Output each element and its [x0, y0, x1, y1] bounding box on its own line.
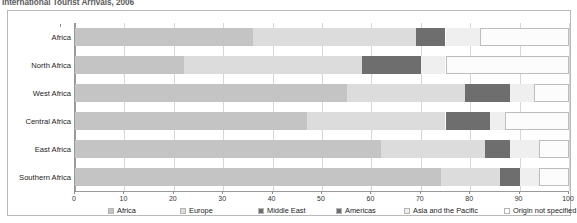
bar-segment: [75, 84, 347, 102]
bar-segment: [347, 84, 466, 102]
axis-tick-mark: [60, 24, 61, 27]
bar-segment: [510, 84, 535, 102]
x-tick: [370, 191, 371, 194]
bar-segment: [480, 28, 569, 46]
x-tick: [420, 191, 421, 194]
bar-segment: [446, 56, 570, 74]
category-label: North Africa: [31, 61, 71, 70]
bar-segment: [184, 56, 362, 74]
bar-segment: [75, 140, 381, 158]
legend-label: Middle East: [267, 206, 306, 215]
legend-swatch-icon: [336, 208, 342, 214]
bar-segment: [381, 140, 485, 158]
x-tick-label: 60: [366, 195, 374, 202]
legend-label: Origin not specified: [513, 206, 576, 215]
legend-label: Asia and the Pacific: [413, 206, 478, 215]
legend-item[interactable]: Europe: [180, 206, 213, 215]
bar-segment: [307, 112, 445, 130]
x-tick-label: 100: [562, 195, 574, 202]
bar-segment: [441, 168, 500, 186]
bar-segment: [539, 140, 569, 158]
x-tick: [469, 191, 470, 194]
bar-segment: [416, 28, 446, 46]
bar-segment: [75, 112, 307, 130]
plot-area: AfricaNorth AfricaWest AfricaCentral Afr…: [74, 23, 568, 191]
chart-legend: AfricaEuropeMiddle EastAmericasAsia and …: [74, 206, 574, 220]
bar-row: Southern Africa: [75, 163, 568, 191]
legend-item[interactable]: Asia and the Pacific: [404, 206, 478, 215]
legend-label: Americas: [345, 206, 376, 215]
bar-segment: [362, 56, 421, 74]
legend-swatch-icon: [108, 208, 114, 214]
bar-segment: [465, 84, 509, 102]
bar-segment: [75, 28, 253, 46]
x-tick-label: 70: [416, 195, 424, 202]
legend-item[interactable]: Africa: [108, 206, 136, 215]
legend-label: Europe: [189, 206, 213, 215]
x-tick-label: 80: [465, 195, 473, 202]
legend-swatch-icon: [404, 208, 410, 214]
x-tick-label: 90: [515, 195, 523, 202]
x-tick: [123, 191, 124, 194]
bar-segment: [534, 84, 569, 102]
legend-item[interactable]: Middle East: [258, 206, 306, 215]
plot-frame: AfricaNorth AfricaWest AfricaCentral Afr…: [7, 10, 571, 216]
bar-segment: [253, 28, 416, 46]
x-tick: [321, 191, 322, 194]
bar-segment: [485, 140, 510, 158]
x-tick-label: 0: [72, 195, 76, 202]
x-tick: [74, 191, 75, 194]
category-label: West Africa: [33, 89, 71, 98]
category-label: East Africa: [35, 145, 71, 154]
x-axis: 0102030405060708090100: [74, 191, 568, 192]
category-label: Central Africa: [25, 117, 71, 126]
x-tick-label: 20: [169, 195, 177, 202]
x-tick: [272, 191, 273, 194]
bar-segment: [421, 56, 446, 74]
x-tick-label: 10: [119, 195, 127, 202]
bar-row: East Africa: [75, 135, 568, 163]
chart-figure: International Tourist Arrivals, 2006 Afr…: [0, 0, 577, 223]
bar-segment: [75, 56, 184, 74]
category-label: Southern Africa: [19, 173, 71, 182]
bar-row: Africa: [75, 23, 568, 51]
category-label: Africa: [52, 33, 71, 42]
bar-segment: [520, 168, 540, 186]
x-tick: [222, 191, 223, 194]
bar-segment: [539, 168, 569, 186]
bar-segment: [75, 168, 441, 186]
bar-segment: [505, 112, 569, 130]
x-tick: [173, 191, 174, 194]
x-tick: [519, 191, 520, 194]
x-tick-label: 40: [268, 195, 276, 202]
x-tick-label: 30: [218, 195, 226, 202]
legend-swatch-icon: [504, 208, 510, 214]
legend-item[interactable]: Americas: [336, 206, 376, 215]
legend-item[interactable]: Origin not specified: [504, 206, 576, 215]
bar-segment: [446, 28, 481, 46]
bar-row: North Africa: [75, 51, 568, 79]
x-tick: [568, 191, 569, 194]
bar-row: West Africa: [75, 79, 568, 107]
bar-segment: [510, 140, 540, 158]
bar-segment: [500, 168, 520, 186]
legend-swatch-icon: [258, 208, 264, 214]
bar-row: Central Africa: [75, 107, 568, 135]
bar-segment: [490, 112, 505, 130]
bar-segment: [446, 112, 490, 130]
chart-title: International Tourist Arrivals, 2006: [2, 0, 134, 7]
legend-label: Africa: [117, 206, 136, 215]
gridline: [569, 23, 570, 191]
x-tick-label: 50: [317, 195, 325, 202]
legend-swatch-icon: [180, 208, 186, 214]
